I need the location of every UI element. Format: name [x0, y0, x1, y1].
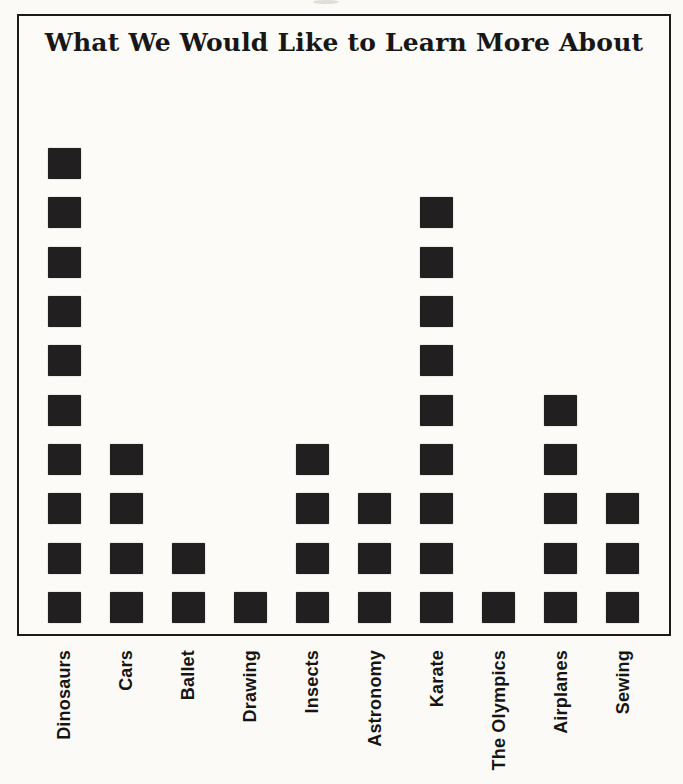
chart-title: What We Would Like to Learn More About — [19, 28, 669, 57]
worksheet-page: What We Would Like to Learn More About D… — [0, 0, 683, 784]
chart-frame: What We Would Like to Learn More About — [17, 14, 671, 636]
scan-artifact — [313, 0, 339, 4]
